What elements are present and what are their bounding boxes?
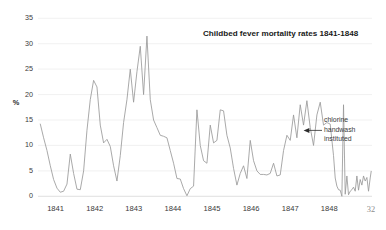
ytick-label-20: 20 bbox=[25, 90, 33, 99]
childbed-fever-line-chart: 35 30 25 20 15 10 5 0 % 1841 1842 1843 1… bbox=[0, 0, 386, 230]
x-axis-tick-labels: 1841 1842 1843 1844 1845 1846 1847 1848 bbox=[47, 204, 338, 213]
ytick-label-0: 0 bbox=[29, 191, 33, 200]
xtick-label-1845: 1845 bbox=[204, 204, 221, 213]
y-axis-tick-labels: 35 30 25 20 15 10 5 0 bbox=[25, 13, 33, 200]
chart-figure: 35 30 25 20 15 10 5 0 % 1841 1842 1843 1… bbox=[0, 0, 386, 230]
xtick-label-1843: 1843 bbox=[125, 204, 142, 213]
ytick-label-30: 30 bbox=[25, 39, 33, 48]
y-axis-title: % bbox=[13, 98, 20, 107]
xtick-label-1846: 1846 bbox=[243, 204, 260, 213]
xtick-label-1841: 1841 bbox=[47, 204, 64, 213]
xtick-label-1844: 1844 bbox=[164, 204, 181, 213]
gridlines-group bbox=[38, 18, 372, 196]
xtick-label-1842: 1842 bbox=[86, 204, 103, 213]
xtick-label-1848: 1848 bbox=[321, 204, 338, 213]
page-number: 32 bbox=[367, 205, 375, 214]
annotation-text-line-1: chlorine bbox=[324, 116, 348, 123]
annotation-text-line-3: instituted bbox=[324, 135, 352, 142]
ytick-label-10: 10 bbox=[25, 140, 33, 149]
ytick-label-15: 15 bbox=[25, 115, 33, 124]
xtick-label-1847: 1847 bbox=[282, 204, 299, 213]
ytick-label-5: 5 bbox=[29, 166, 33, 175]
ytick-label-25: 25 bbox=[25, 64, 33, 73]
annotation-text-line-2: handwash bbox=[324, 126, 356, 133]
mortality-line-series bbox=[40, 36, 371, 196]
ytick-label-35: 35 bbox=[25, 13, 33, 22]
annotation-arrow-head-icon bbox=[304, 128, 310, 133]
chart-title: Childbed fever mortality rates 1841-1848 bbox=[203, 29, 359, 38]
